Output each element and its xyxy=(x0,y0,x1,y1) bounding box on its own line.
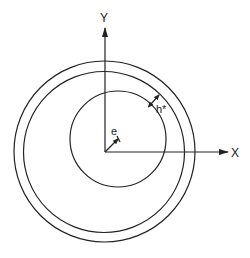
journal-bearing-diagram: Y X e h* xyxy=(0,0,250,258)
eccentricity-vector xyxy=(105,139,118,152)
film-thickness-label: h* xyxy=(156,103,167,115)
x-axis-label: X xyxy=(231,146,239,160)
eccentricity-label: e xyxy=(111,125,117,137)
y-axis-label: Y xyxy=(100,11,108,25)
